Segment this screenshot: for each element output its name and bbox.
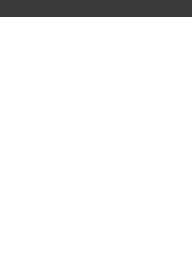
header-banner (0, 0, 192, 17)
